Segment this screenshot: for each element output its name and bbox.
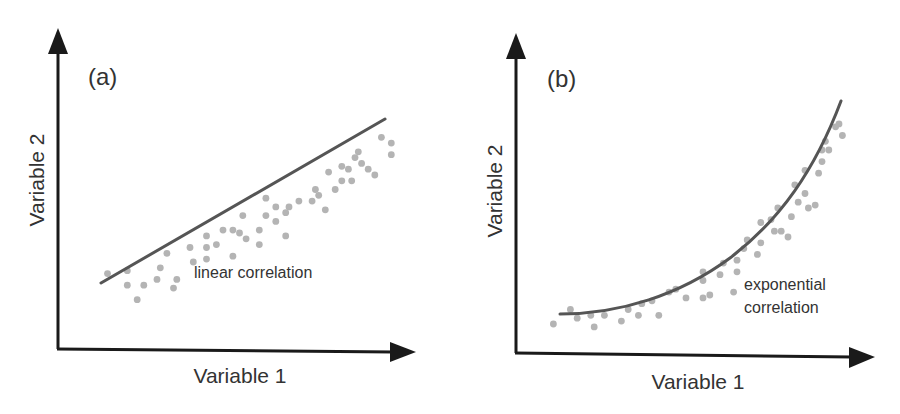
data-point <box>154 276 161 283</box>
data-point <box>312 186 319 193</box>
data-point <box>282 233 289 240</box>
data-point <box>309 198 316 205</box>
data-point <box>388 151 395 158</box>
data-point <box>574 315 581 322</box>
data-point <box>785 234 792 241</box>
data-point <box>635 312 642 319</box>
data-point <box>358 160 365 167</box>
data-point <box>203 233 210 240</box>
data-point <box>802 190 809 197</box>
data-point <box>203 244 210 251</box>
data-point <box>591 324 598 331</box>
data-point <box>243 235 250 242</box>
data-point <box>700 295 707 302</box>
data-point <box>170 285 177 292</box>
data-point <box>706 292 713 299</box>
data-point <box>378 134 385 141</box>
x-axis-label: Variable 1 <box>651 370 744 393</box>
data-point <box>263 195 270 202</box>
data-point <box>819 158 826 165</box>
data-point <box>286 204 293 211</box>
data-point <box>788 213 795 220</box>
data-point <box>220 227 227 234</box>
data-point <box>296 198 303 205</box>
data-point <box>332 186 339 193</box>
panel-tag: (a) <box>88 63 117 90</box>
data-point <box>655 312 662 319</box>
data-point <box>757 239 764 246</box>
data-point <box>325 169 332 176</box>
x-axis-arrow-icon <box>390 342 416 362</box>
data-point <box>272 218 279 225</box>
data-point <box>263 212 270 219</box>
data-point <box>352 154 359 161</box>
data-point <box>836 121 843 128</box>
linear-fit-line <box>101 119 385 283</box>
data-point <box>164 250 171 257</box>
data-point <box>203 256 210 263</box>
data-point <box>322 206 329 213</box>
annotation-label-line1: exponential <box>744 276 826 293</box>
annotation-label-line2: correlation <box>744 299 819 316</box>
data-point <box>812 202 819 209</box>
x-axis <box>515 353 852 357</box>
data-point <box>730 289 737 296</box>
data-point <box>236 230 243 237</box>
panel-tag: (b) <box>547 65 576 92</box>
x-axis <box>57 349 394 352</box>
data-point <box>371 172 378 179</box>
y-axis-label: Variable 2 <box>483 144 506 237</box>
data-point <box>601 312 608 319</box>
data-point <box>282 209 289 216</box>
data-point <box>365 166 372 173</box>
data-point <box>717 271 724 278</box>
data-point <box>734 268 741 275</box>
data-point <box>256 241 263 248</box>
data-point <box>567 306 574 313</box>
data-point <box>778 228 785 235</box>
y-axis-arrow-icon <box>506 33 526 59</box>
data-point <box>213 241 220 248</box>
annotation-label: linear correlation <box>194 264 312 281</box>
x-axis-arrow-icon <box>849 347 875 368</box>
data-point <box>338 177 345 184</box>
data-point <box>104 270 111 277</box>
data-point <box>140 282 147 289</box>
data-point <box>805 205 812 212</box>
data-point <box>315 192 322 199</box>
data-point <box>338 163 345 170</box>
data-point <box>757 219 764 226</box>
data-point <box>734 257 741 264</box>
data-point <box>187 244 194 251</box>
data-point <box>230 253 237 260</box>
data-point <box>825 147 832 154</box>
data-point <box>272 204 279 211</box>
data-point <box>388 140 395 147</box>
data-point <box>683 295 690 302</box>
y-axis-arrow-icon <box>48 28 68 54</box>
data-point <box>795 199 802 206</box>
figure-canvas: (a) linear correlation Variable 1 Variab… <box>0 0 900 414</box>
data-point <box>256 227 263 234</box>
data-point <box>157 264 164 271</box>
data-point <box>124 282 131 289</box>
data-point <box>550 321 557 328</box>
data-point <box>230 227 237 234</box>
data-point <box>355 148 362 155</box>
data-point <box>815 170 822 177</box>
data-point <box>345 166 352 173</box>
panel-a: (a) linear correlation Variable 1 Variab… <box>25 28 416 387</box>
y-axis-label: Variable 2 <box>25 133 48 226</box>
panel-b: (b) exponential correlation Variable 1 V… <box>483 33 875 393</box>
data-point <box>754 251 761 258</box>
data-point <box>134 296 141 303</box>
data-point <box>618 318 625 325</box>
data-point <box>839 132 846 139</box>
data-point <box>239 212 246 219</box>
x-axis-label: Variable 1 <box>193 364 286 387</box>
data-point <box>348 177 355 184</box>
data-point <box>771 228 778 235</box>
data-point <box>173 276 180 283</box>
